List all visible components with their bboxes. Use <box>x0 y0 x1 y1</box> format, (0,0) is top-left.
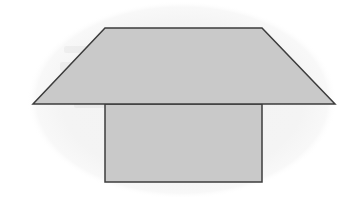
geometry-figure <box>0 0 353 197</box>
figure-canvas <box>0 0 353 197</box>
rectangle-base <box>105 104 262 182</box>
